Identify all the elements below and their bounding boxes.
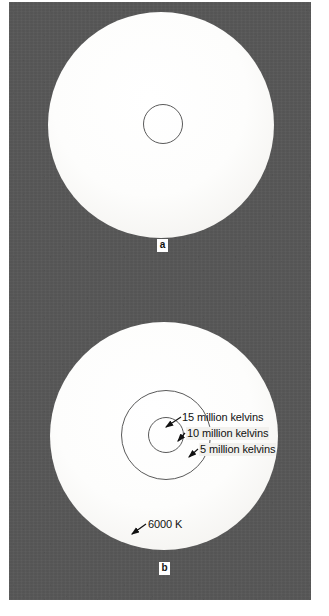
panel-b-letter: b	[159, 562, 170, 575]
callout-15-million-kelvins: 15 million kelvins	[182, 411, 263, 424]
callout-5-million-kelvins: 5 million kelvins	[199, 443, 276, 456]
callout-10-million-kelvins: 10 million kelvins	[186, 427, 269, 440]
panel-a-letter: a	[157, 239, 168, 252]
panel-a-core-ring	[143, 104, 183, 144]
panel-b-ten-million-ring	[148, 417, 184, 453]
figure-page: a 15 million kelvins 10 million kelvins …	[0, 0, 329, 616]
callout-6000-k: 6000 K	[148, 518, 182, 531]
